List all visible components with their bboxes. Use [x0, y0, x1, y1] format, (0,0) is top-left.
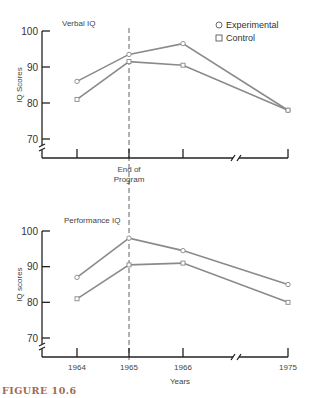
x-axis-break-icon	[231, 354, 241, 360]
legend-experimental-label: Experimental	[226, 20, 279, 30]
x-axis-break-icon	[231, 155, 241, 161]
square-icon	[286, 108, 290, 112]
x-tick-label: 1964	[68, 363, 86, 372]
performance-iq-panel: Performance IQ708090100IQ scores19641965…	[15, 216, 297, 386]
square-icon	[181, 261, 185, 265]
square-icon	[286, 300, 290, 304]
y-axis-label: IQ Scores	[15, 67, 24, 103]
square-icon	[75, 97, 79, 101]
circle-icon	[216, 22, 222, 28]
y-axis-label: IQ scores	[15, 267, 24, 301]
y-tick-label: 80	[27, 297, 39, 308]
x-tick-label: 1965	[120, 363, 138, 372]
x-tick-label: 1975	[279, 363, 297, 372]
square-icon	[181, 63, 185, 67]
circle-icon	[181, 41, 185, 45]
y-axis-break-icon	[39, 144, 45, 151]
verbal-iq-panel: Verbal IQ708090100IQ ScoresEnd ofProgram	[15, 19, 290, 184]
square-icon	[216, 35, 222, 41]
y-axis-break-icon	[39, 343, 45, 350]
panel-title: Verbal IQ	[62, 19, 95, 28]
y-tick-label: 80	[27, 98, 39, 109]
y-tick-label: 90	[27, 261, 39, 272]
y-tick-label: 90	[27, 62, 39, 73]
legend-control-label: Control	[226, 33, 255, 43]
annotation-line-1: End of	[117, 165, 141, 174]
annotation-line-2: Program	[114, 175, 145, 184]
square-icon	[127, 60, 131, 64]
square-icon	[127, 263, 131, 267]
square-icon	[75, 297, 79, 301]
y-tick-label: 100	[21, 26, 38, 37]
panel-title: Performance IQ	[64, 216, 120, 225]
y-tick-label: 70	[27, 134, 39, 145]
legend: Experimental Control	[216, 20, 279, 43]
circle-icon	[75, 275, 79, 279]
figure-canvas: Verbal IQ708090100IQ ScoresEnd ofProgram…	[0, 0, 311, 398]
series-line-control	[77, 263, 288, 302]
y-tick-label: 70	[27, 333, 39, 344]
circle-icon	[181, 248, 185, 252]
circle-icon	[75, 79, 79, 83]
circle-icon	[127, 52, 131, 56]
circle-icon	[286, 282, 290, 286]
circle-icon	[127, 236, 131, 240]
figure-label: FIGURE 10.6	[2, 385, 77, 396]
x-tick-label: 1966	[174, 363, 192, 372]
series-line-control	[77, 62, 288, 111]
y-tick-label: 100	[21, 226, 38, 237]
x-axis-label: Years	[170, 377, 190, 386]
